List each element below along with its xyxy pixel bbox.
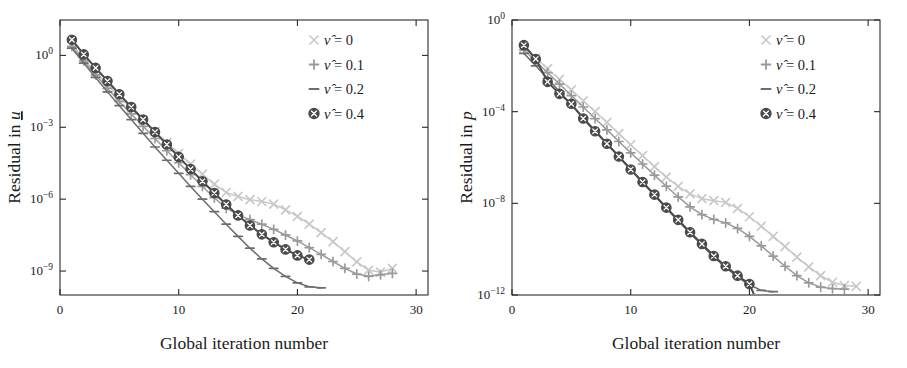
x-tick-label: 30 [410,302,423,317]
plot-residual-u: 010203010010−310−610−9Global iteration n… [0,0,455,368]
legend-label: ν̂ = 0.4 [324,106,365,122]
y-tick-label: 10−3 [30,118,53,134]
marker-circled-cross-icon [757,306,766,315]
legend-item-nu04[interactable]: ν̂ = 0.4 [309,106,365,122]
y-tick-label: 100 [487,11,505,27]
marker-cross-icon [282,206,290,214]
plot-frame [512,20,880,295]
marker-cross-icon [817,272,825,280]
y-axis-title: Residual in u [4,111,24,204]
marker-plus-icon [710,215,718,223]
marker-cross-icon [781,243,789,251]
marker-plus-icon [805,279,813,287]
x-axis-title: Global iteration number [612,333,780,353]
marker-cross-icon [686,190,694,198]
x-tick-label: 20 [291,302,304,317]
x-tick-label: 30 [862,302,875,317]
marker-plus-icon [733,224,741,232]
marker-cross-icon [210,180,218,188]
marker-cross-icon [353,258,361,266]
legend-item-nu0[interactable]: ν̂ = 0 [310,32,353,48]
marker-cross-icon [329,238,337,246]
marker-cross-icon [662,173,670,181]
x-tick-label: 20 [743,302,756,317]
legend-cross-icon [310,36,318,44]
legend: ν̂ = 0ν̂ = 0.1ν̂ = 0.2ν̂ = 0.4 [761,32,817,122]
plot-residual-p: 010203010010−410−810−12Global iteration … [452,0,907,368]
marker-cross-icon [805,263,813,271]
y-tick-label: 100 [35,46,53,62]
legend-item-nu01[interactable]: ν̂ = 0.1 [310,57,364,73]
marker-plus-icon [317,250,325,258]
legend-label: ν̂ = 0 [324,32,353,48]
marker-cross-icon [317,229,325,237]
legend-item-nu0[interactable]: ν̂ = 0 [762,32,805,48]
marker-cross-icon [341,248,349,256]
legend-item-nu04[interactable]: ν̂ = 0.4 [761,106,817,122]
marker-plus-icon [353,270,361,278]
series-nu01 [68,42,397,280]
y-tick-label: 10−9 [30,262,53,278]
legend-plus-icon [310,60,319,69]
legend-label: ν̂ = 0.1 [324,57,364,73]
marker-cross-icon [734,204,742,212]
marker-cross-icon [757,222,765,230]
marker-plus-icon [721,219,729,227]
marker-cross-icon [305,220,313,228]
marker-plus-icon [293,237,301,245]
marker-cross-icon [639,152,647,160]
marker-plus-icon [329,257,337,265]
panel-residual-p: 010203010010−410−810−12Global iteration … [452,0,907,368]
x-tick-label: 0 [509,302,516,317]
panel-residual-u: 010203010010−310−610−9Global iteration n… [0,0,455,368]
legend-label: ν̂ = 0.2 [324,81,364,97]
svg-text:Residual in u: Residual in u [4,111,24,204]
x-tick-label: 0 [57,302,64,317]
marker-cross-icon [650,163,658,171]
legend-item-nu02[interactable]: ν̂ = 0.2 [761,81,816,97]
marker-plus-icon [258,220,266,228]
marker-cross-icon [293,212,301,220]
marker-cross-icon [793,253,801,261]
marker-cross-icon [745,213,753,221]
x-tick-label: 10 [172,302,185,317]
legend-label: ν̂ = 0.1 [776,57,816,73]
legend-cross-icon [762,36,770,44]
series-path [72,45,393,272]
legend-item-nu02[interactable]: ν̂ = 0.2 [309,81,364,97]
marker-inner-cross-icon [759,309,764,314]
y-tick-label: 10−12 [477,286,505,302]
marker-plus-icon [816,283,824,291]
legend-label: ν̂ = 0.4 [776,106,817,122]
legend-label: ν̂ = 0 [776,32,805,48]
legend: ν̂ = 0ν̂ = 0.1ν̂ = 0.2ν̂ = 0.4 [309,32,365,122]
x-axis-title: Global iteration number [160,333,328,353]
y-tick-label: 10−4 [482,103,505,119]
marker-plus-icon [698,210,706,218]
plot-frame [60,20,428,295]
marker-plus-icon [341,264,349,272]
x-tick-label: 10 [624,302,637,317]
marker-plus-icon [281,231,289,239]
marker-plus-icon [305,243,313,251]
series-nu0 [68,41,397,276]
marker-cross-icon [769,232,777,240]
marker-plus-icon [269,225,277,233]
convergence-figure: 010203010010−310−610−9Global iteration n… [0,0,907,368]
marker-cross-icon [674,182,682,190]
legend-item-nu01[interactable]: ν̂ = 0.1 [762,57,816,73]
series-layer [67,35,396,288]
y-axis-title: Residual in p [456,111,476,204]
legend-label: ν̂ = 0.2 [776,81,816,97]
svg-text:Residual in p: Residual in p [456,111,476,204]
y-tick-label: 10−8 [482,194,505,210]
y-tick-label: 10−6 [30,190,53,206]
marker-cross-icon [627,141,635,149]
legend-plus-icon [762,60,771,69]
marker-cross-icon [222,188,230,196]
